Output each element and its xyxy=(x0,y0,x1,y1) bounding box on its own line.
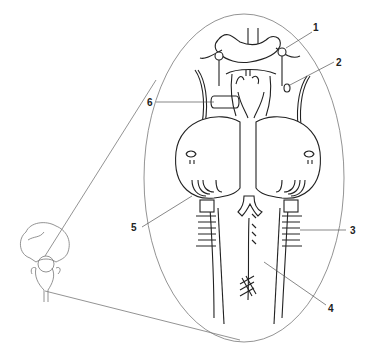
label-2: 2 xyxy=(336,57,342,68)
vertebra-rungs-left xyxy=(196,200,216,246)
label-1: 1 xyxy=(313,22,319,33)
label-4: 4 xyxy=(328,303,334,314)
small-brain-icon xyxy=(20,223,69,302)
label-6: 6 xyxy=(147,97,153,108)
label-5: 5 xyxy=(131,222,137,233)
diagram-canvas: 1 2 3 4 5 6 xyxy=(0,0,374,352)
vertebra-rungs-right xyxy=(282,200,302,246)
label-3: 3 xyxy=(350,225,356,236)
labels: 1 2 3 4 5 6 xyxy=(131,22,356,314)
brainstem-illustration xyxy=(176,28,321,324)
